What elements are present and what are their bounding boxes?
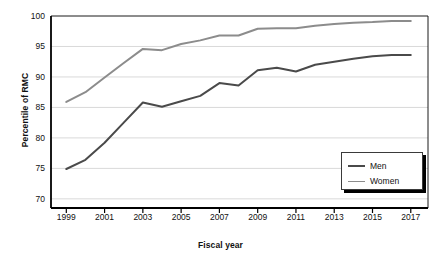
line-chart: Percentile of RMC Fiscal year 7075808590…	[0, 0, 441, 260]
plot-area	[0, 0, 441, 260]
legend-item-label: Women	[370, 176, 399, 186]
legend-line-swatch-icon	[348, 181, 365, 182]
legend-item-women[interactable]: Women	[348, 174, 399, 188]
legend-item-men[interactable]: Men	[348, 159, 387, 173]
series-line-women	[66, 21, 410, 102]
data-series-layer	[66, 21, 410, 169]
legend-item-label: Men	[370, 161, 387, 171]
legend-line-swatch-icon	[348, 165, 365, 167]
chart-legend[interactable]: MenWomen	[341, 152, 423, 190]
